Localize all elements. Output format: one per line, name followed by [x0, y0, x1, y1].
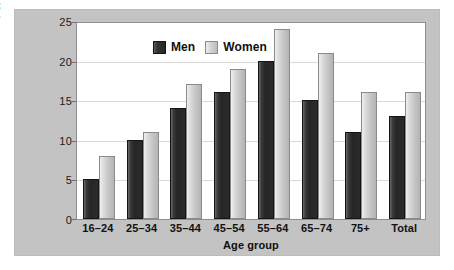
- legend-swatch-women-icon: [205, 41, 218, 54]
- bar-men: [127, 140, 143, 219]
- bar-women: [186, 84, 202, 219]
- bar-women: [361, 92, 377, 219]
- y-axis-tick-label: 25: [59, 16, 72, 28]
- x-axis-tick-label: 35–44: [170, 222, 201, 234]
- y-axis: 0510152025: [28, 22, 76, 220]
- plot-area: Men Women: [76, 22, 426, 220]
- chart-panel: Percentage with BMI of over 30 051015202…: [14, 9, 440, 256]
- bar-women: [99, 156, 115, 219]
- bar-men: [258, 61, 274, 219]
- bar-men: [302, 100, 318, 219]
- bar-women: [405, 92, 421, 219]
- y-axis-tick-label: 20: [59, 56, 72, 68]
- x-axis-tick-label: 16–24: [82, 222, 113, 234]
- bar-women: [318, 53, 334, 219]
- bar-men: [345, 132, 361, 219]
- x-axis-tick-label: 75+: [351, 222, 370, 234]
- legend-swatch-men-icon: [153, 41, 166, 54]
- chart-page: Percentage with BMI of over 30 051015202…: [0, 0, 454, 270]
- y-axis-tick-label: 0: [66, 214, 72, 226]
- x-axis-tick-label: 25–34: [126, 222, 157, 234]
- x-axis-title: Age group: [76, 239, 426, 251]
- bar-women: [274, 29, 290, 219]
- bar-women: [230, 69, 246, 219]
- legend-label-women: Women: [223, 40, 267, 54]
- legend-label-men: Men: [171, 40, 195, 54]
- x-axis-tick-label: 45–54: [214, 222, 245, 234]
- x-axis-tick-label: Total: [391, 222, 417, 234]
- y-axis-title: Percentage with BMI of over 30: [0, 0, 4, 35]
- bar-men: [389, 116, 405, 219]
- gridline: [77, 62, 425, 63]
- x-axis-tick-label: 55–64: [257, 222, 288, 234]
- y-axis-tick-label: 15: [59, 95, 72, 107]
- legend-item-women: Women: [205, 40, 267, 54]
- bar-men: [170, 108, 186, 219]
- chart-legend: Men Women: [153, 40, 267, 54]
- y-axis-tick-label: 10: [59, 135, 72, 147]
- x-axis-tick-label: 65–74: [301, 222, 332, 234]
- bar-women: [143, 132, 159, 219]
- x-axis-labels: 16–2425–3435–4445–5455–6465–7475+Total: [76, 222, 426, 238]
- legend-item-men: Men: [153, 40, 195, 54]
- bar-men: [83, 179, 99, 219]
- bar-men: [214, 92, 230, 219]
